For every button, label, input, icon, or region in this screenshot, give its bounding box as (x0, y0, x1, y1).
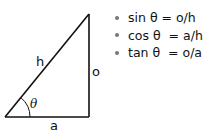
hypotenuse-label: h (36, 54, 44, 69)
bullet-icon (115, 51, 119, 55)
formula-text: cos θ = a/h (128, 27, 203, 45)
adjacent-label: a (50, 118, 58, 133)
formula-item: cos θ = a/h (115, 27, 203, 45)
formula-text: tan θ = o/a (128, 44, 202, 62)
opposite-label: o (92, 64, 100, 79)
angle-arc (21, 98, 30, 117)
formula-item: tan θ = o/a (115, 44, 203, 62)
formula-list: sin θ = o/h cos θ = a/h tan θ = o/a (115, 9, 203, 62)
bullet-icon (115, 16, 119, 20)
formula-item: sin θ = o/h (115, 9, 203, 27)
theta-label: θ (30, 97, 38, 111)
hypotenuse-side (5, 14, 89, 117)
bullet-icon (115, 33, 119, 37)
formula-text: sin θ = o/h (128, 9, 196, 27)
